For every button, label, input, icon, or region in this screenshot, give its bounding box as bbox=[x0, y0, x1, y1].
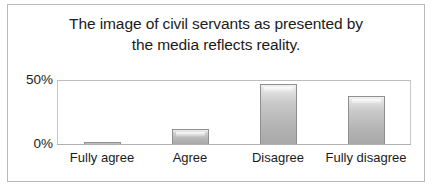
chart-figure: The image of civil servants as presented… bbox=[7, 4, 425, 182]
y-axis-tick-50: 50% bbox=[9, 73, 53, 87]
bar-disagree[interactable] bbox=[260, 84, 297, 144]
bar-fully-agree[interactable] bbox=[84, 142, 121, 144]
bars-container bbox=[58, 81, 410, 144]
x-axis-baseline bbox=[57, 144, 411, 145]
x-axis-label-fully-disagree: Fully disagree bbox=[311, 150, 421, 166]
bar-agree[interactable] bbox=[172, 129, 209, 144]
x-axis-labels: Fully agree Agree Disagree Fully disagre… bbox=[57, 150, 411, 170]
chart-title-line-1: The image of civil servants as presented… bbox=[8, 13, 424, 34]
chart-title-line-2: the media reflects reality. bbox=[8, 34, 424, 55]
chart-title: The image of civil servants as presented… bbox=[8, 13, 424, 55]
bar-fully-disagree[interactable] bbox=[348, 96, 385, 144]
y-axis-tick-0: 0% bbox=[9, 137, 53, 151]
